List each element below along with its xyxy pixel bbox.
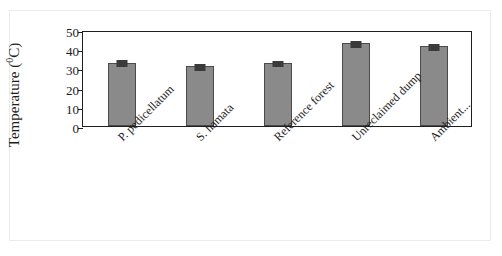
y-tick-label: 40: [66, 45, 79, 58]
bar-slot: [108, 30, 136, 126]
error-bar: [195, 64, 206, 71]
error-bar: [429, 44, 440, 51]
y-tick-label: 50: [66, 26, 79, 39]
error-bar: [273, 61, 284, 67]
y-tick-label: 0: [73, 122, 80, 135]
y-tick-label: 30: [66, 64, 79, 77]
bar-slot: [342, 30, 370, 126]
bar: [342, 43, 370, 126]
bar-slot: [186, 30, 214, 126]
bar: [420, 46, 448, 126]
y-axis-title-tail: C): [6, 43, 22, 58]
degree-superscript: 0: [4, 58, 15, 63]
chart-figure: Temperature (0C) 50403020100 P. pedicell…: [0, 0, 502, 256]
y-tick-label: 10: [66, 102, 79, 115]
y-axis-title-main: Temperature (: [6, 63, 22, 147]
bar-slot: [264, 30, 292, 126]
error-bar: [117, 60, 128, 67]
error-bar: [351, 41, 362, 48]
y-tick-label: 20: [66, 83, 79, 96]
y-axis-title: Temperature (0C): [0, 20, 34, 170]
y-axis-title-text: Temperature (0C): [6, 43, 23, 147]
